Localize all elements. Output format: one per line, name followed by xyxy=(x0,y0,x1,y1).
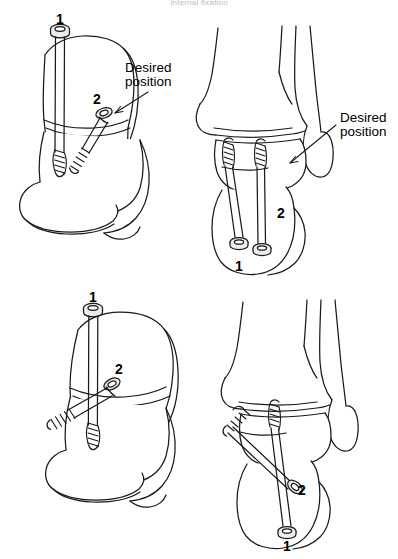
panel-top-left xyxy=(20,24,150,239)
desired-position-label-top-left-line1: Desired xyxy=(125,61,172,75)
panel-bottom-left xyxy=(46,303,179,507)
screw-number-label-bottom-right-1: 1 xyxy=(283,539,291,553)
screw-number-label-bottom-left-1: 1 xyxy=(89,290,97,304)
illustration-canvas xyxy=(0,0,398,559)
screw-number-label-top-right-1: 1 xyxy=(235,259,243,273)
screw-number-label-bottom-left-2: 2 xyxy=(115,362,123,376)
screw-number-label-top-left-2: 2 xyxy=(93,92,101,106)
screw-number-label-bottom-right-2: 2 xyxy=(298,483,306,497)
figure-container: Internal fixation xyxy=(0,0,398,559)
desired-position-label-top-right-line2: position xyxy=(340,125,387,139)
screw-number-label-top-left-1: 1 xyxy=(56,12,64,26)
desired-position-label-top-right-line1: Desired xyxy=(340,111,387,125)
desired-position-label-top-left-line2: position xyxy=(125,75,172,89)
panel-top-right xyxy=(196,26,336,275)
screw-number-label-top-right-2: 2 xyxy=(277,206,285,220)
panel-bottom-right xyxy=(221,300,358,549)
figure-title: Internal fixation xyxy=(0,0,398,7)
